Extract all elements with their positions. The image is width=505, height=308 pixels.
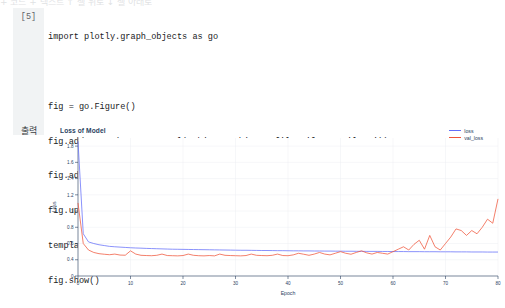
plotly-output[interactable]: Loss of Model loss val_loss 00.40.60.811… (46, 124, 505, 306)
svg-text:70: 70 (443, 281, 449, 286)
svg-text:0: 0 (77, 281, 80, 286)
code-line-blank (48, 67, 498, 79)
output-label: 출력 (14, 124, 44, 137)
svg-text:1.8: 1.8 (67, 144, 74, 149)
svg-text:1.2: 1.2 (67, 193, 74, 198)
svg-text:1.6: 1.6 (67, 160, 74, 165)
notebook-screenshot: + 코드 + 텍스트 ↑ 셀 위로 ↓ 셀 아래로 [5] 출력 import … (0, 0, 505, 308)
cell-gutter (13, 8, 44, 135)
toolbar-ghost: + 코드 + 텍스트 ↑ 셀 위로 ↓ 셀 아래로 (0, 0, 505, 7)
toolbar-ghost-text: + 코드 + 텍스트 ↑ 셀 위로 ↓ 셀 아래로 (0, 0, 152, 7)
svg-text:Epoch: Epoch (281, 290, 296, 296)
code-line: fig = go.Figure() (48, 102, 498, 114)
svg-text:20: 20 (180, 281, 186, 286)
svg-text:50: 50 (338, 281, 344, 286)
chart-title: Loss of Model (60, 127, 106, 134)
legend-label: loss (464, 128, 473, 134)
svg-text:0.4: 0.4 (67, 257, 74, 262)
svg-text:1: 1 (71, 209, 74, 214)
legend-item-val-loss[interactable]: val_loss (449, 134, 483, 141)
svg-text:30: 30 (233, 281, 239, 286)
svg-text:80: 80 (495, 281, 501, 286)
svg-text:Loss: Loss (51, 201, 57, 212)
svg-text:0.6: 0.6 (67, 241, 74, 246)
legend-swatch-icon (449, 137, 461, 138)
svg-text:0.8: 0.8 (67, 225, 74, 230)
svg-text:60: 60 (390, 281, 396, 286)
svg-text:0: 0 (71, 274, 74, 279)
chart-legend[interactable]: loss val_loss (449, 127, 483, 141)
cell-execution-count[interactable]: [5] (14, 12, 43, 22)
legend-swatch-icon (449, 130, 461, 131)
legend-item-loss[interactable]: loss (449, 127, 483, 134)
legend-label: val_loss (464, 135, 483, 141)
svg-text:1.4: 1.4 (67, 176, 74, 181)
code-line: import plotly.graph_objects as go (48, 32, 498, 44)
chart-canvas[interactable]: 00.40.60.811.21.41.61.801020304050607080… (46, 124, 505, 306)
svg-text:10: 10 (128, 281, 134, 286)
svg-text:40: 40 (285, 281, 291, 286)
